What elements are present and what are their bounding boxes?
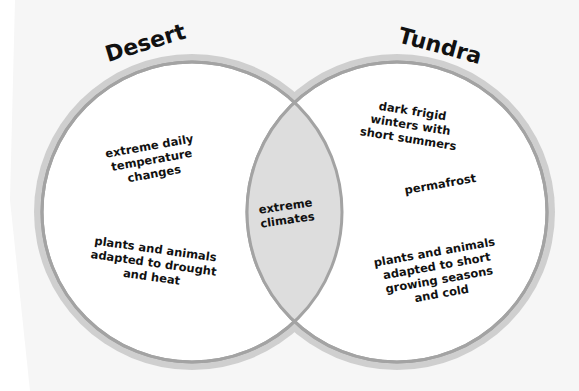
venn-diagram: Desert Tundra extreme daily temperature … bbox=[0, 0, 579, 391]
venn-canvas: Desert Tundra extreme daily temperature … bbox=[0, 0, 579, 391]
